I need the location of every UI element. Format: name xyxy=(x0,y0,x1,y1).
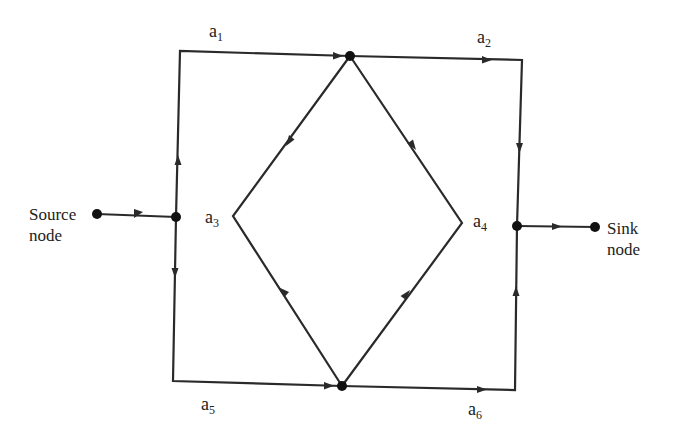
arrow-a6-up-icon xyxy=(513,286,520,296)
arrow-sink-icon xyxy=(552,223,562,230)
arrow-a1-right-icon xyxy=(333,52,343,60)
bottom-node xyxy=(337,381,347,391)
arrow-a6-right-icon xyxy=(477,386,487,393)
label-a4: a4 xyxy=(473,211,487,231)
label-a3: a3 xyxy=(205,207,219,227)
left-junction-node xyxy=(171,212,181,222)
source-node-dot xyxy=(92,209,102,219)
edge-a4 xyxy=(342,56,462,386)
right-junction-node xyxy=(512,221,522,231)
arrow-a2-down-icon xyxy=(516,143,523,153)
source-label-line1: Source xyxy=(29,204,76,225)
edge-a5 xyxy=(173,217,342,386)
flow-network-diagram xyxy=(0,0,683,440)
label-a2: a2 xyxy=(477,27,491,47)
sink-node-label: Sink node xyxy=(607,218,640,260)
label-a6: a6 xyxy=(468,399,482,419)
edge-a6 xyxy=(342,226,517,390)
label-a5: a5 xyxy=(201,394,215,414)
sink-node-dot xyxy=(590,222,600,232)
edge-a3 xyxy=(233,56,350,386)
arrow-a5-right-icon xyxy=(324,382,334,390)
sink-label-line1: Sink xyxy=(607,218,640,239)
source-label-line2: node xyxy=(29,225,76,246)
edge-a2 xyxy=(350,56,522,226)
arrow-a1-up-icon xyxy=(175,155,182,165)
source-node-label: Source node xyxy=(29,204,76,246)
label-a1: a1 xyxy=(209,21,223,41)
arrow-a5-down-icon xyxy=(172,268,179,278)
top-node xyxy=(345,51,355,61)
sink-label-line2: node xyxy=(607,239,640,260)
arrow-a2-right-icon xyxy=(482,56,492,64)
edge-a1 xyxy=(176,51,350,217)
